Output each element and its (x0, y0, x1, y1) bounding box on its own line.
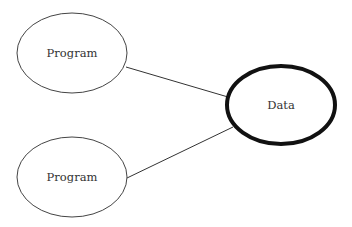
node-program-1: Program (17, 13, 127, 93)
edge-program-1-to-data (126, 67, 228, 97)
program-2-label: Program (47, 170, 98, 184)
diagram-canvas: ProgramProgramData (0, 0, 352, 227)
edges-group (126, 67, 233, 178)
node-data: Data (227, 66, 335, 144)
diagram-svg: ProgramProgramData (0, 0, 352, 227)
nodes-group: ProgramProgramData (17, 13, 335, 217)
data-label: Data (267, 98, 295, 112)
program-1-label: Program (47, 46, 98, 60)
edge-program-2-to-data (127, 127, 233, 178)
node-program-2: Program (17, 137, 127, 217)
